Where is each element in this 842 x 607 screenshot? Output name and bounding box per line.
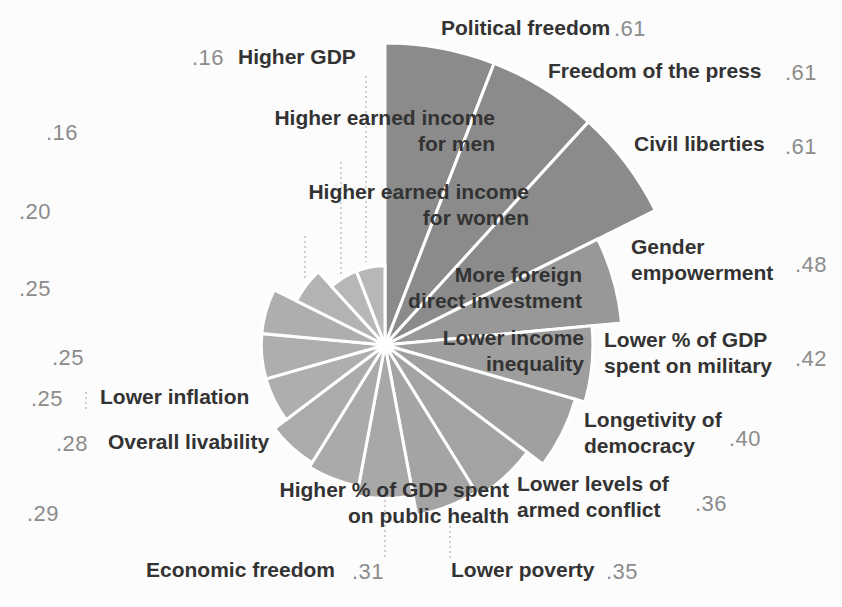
wedge-value-lower-inflation: .25 bbox=[31, 386, 63, 412]
wedge-value-overall-livability: .28 bbox=[56, 431, 88, 457]
wedge-value-lower-income-inequality: .25 bbox=[52, 345, 84, 371]
wedge-value-political-freedom: .61 bbox=[614, 16, 646, 42]
wedge-label-lower-armed-conflict: Lower levels ofarmed conflict bbox=[517, 471, 669, 523]
wedge-value-lower-armed-conflict: .36 bbox=[695, 491, 727, 517]
wedge-value-earned-income-women: .20 bbox=[19, 199, 51, 225]
wedge-label-line: empowerment bbox=[631, 260, 773, 286]
rose-chart: Political freedom.61Freedom of the press… bbox=[0, 0, 842, 607]
wedge-label-line: democracy bbox=[584, 433, 722, 459]
wedge-value-civil-liberties: .61 bbox=[785, 134, 817, 160]
wedge-label-line: on public health bbox=[280, 503, 509, 529]
wedge-label-line: Gender bbox=[631, 234, 773, 260]
wedge-label-earned-income-women: Higher earned incomefor women bbox=[308, 179, 529, 231]
wedge-label-gender-empowerment: Genderempowerment bbox=[631, 234, 773, 286]
wedge-label-line: for men bbox=[274, 131, 495, 157]
wedge-label-line: Lower inflation bbox=[100, 384, 249, 410]
wedge-label-lower-gdp-military: Lower % of GDPspent on military bbox=[604, 327, 772, 379]
wedge-value-foreign-direct-investment: .25 bbox=[19, 276, 51, 302]
chart-labels-layer: Political freedom.61Freedom of the press… bbox=[0, 0, 842, 607]
wedge-label-higher-gdp: Higher GDP bbox=[238, 44, 356, 70]
wedge-label-line: Political freedom bbox=[441, 15, 610, 41]
wedge-label-economic-freedom: Economic freedom bbox=[146, 557, 335, 583]
wedge-value-higher-gdp: .16 bbox=[192, 45, 224, 71]
wedge-label-line: inequality bbox=[443, 351, 584, 377]
wedge-label-freedom-of-the-press: Freedom of the press bbox=[548, 58, 762, 84]
wedge-label-lower-poverty: Lower poverty bbox=[451, 557, 595, 583]
wedge-label-lower-inflation: Lower inflation bbox=[100, 384, 249, 410]
wedge-label-earned-income-men: Higher earned incomefor men bbox=[274, 105, 495, 157]
wedge-label-civil-liberties: Civil liberties bbox=[634, 131, 765, 157]
wedge-value-lower-poverty: .35 bbox=[606, 559, 638, 585]
wedge-label-line: More foreign bbox=[408, 262, 582, 288]
wedge-label-line: armed conflict bbox=[517, 497, 669, 523]
wedge-label-line: Higher % of GDP spent bbox=[280, 477, 509, 503]
wedge-label-line: Overall livability bbox=[108, 429, 269, 455]
wedge-value-economic-freedom: .31 bbox=[352, 559, 384, 585]
wedge-label-line: Freedom of the press bbox=[548, 58, 762, 84]
wedge-value-longetivity-of-democracy: .40 bbox=[729, 426, 761, 452]
wedge-value-gender-empowerment: .48 bbox=[795, 252, 827, 278]
wedge-label-overall-livability: Overall livability bbox=[108, 429, 269, 455]
wedge-value-earned-income-men: .16 bbox=[46, 120, 78, 146]
wedge-value-freedom-of-the-press: .61 bbox=[785, 60, 817, 86]
wedge-label-lower-income-inequality: Lower incomeinequality bbox=[443, 325, 584, 377]
wedge-label-line: Lower income bbox=[443, 325, 584, 351]
wedge-label-line: Lower poverty bbox=[451, 557, 595, 583]
wedge-value-gdp-public-health: .29 bbox=[27, 501, 59, 527]
wedge-label-line: Higher earned income bbox=[308, 179, 529, 205]
wedge-label-line: Economic freedom bbox=[146, 557, 335, 583]
wedge-label-line: Lower levels of bbox=[517, 471, 669, 497]
wedge-label-line: for women bbox=[308, 205, 529, 231]
wedge-label-line: spent on military bbox=[604, 353, 772, 379]
wedge-value-lower-gdp-military: .42 bbox=[795, 346, 827, 372]
wedge-label-gdp-public-health: Higher % of GDP spenton public health bbox=[280, 477, 509, 529]
wedge-label-line: Civil liberties bbox=[634, 131, 765, 157]
wedge-label-line: Longetivity of bbox=[584, 407, 722, 433]
wedge-label-political-freedom: Political freedom bbox=[441, 15, 610, 41]
wedge-label-longetivity-of-democracy: Longetivity ofdemocracy bbox=[584, 407, 722, 459]
wedge-label-line: Lower % of GDP bbox=[604, 327, 772, 353]
wedge-label-line: Higher GDP bbox=[238, 44, 356, 70]
wedge-label-foreign-direct-investment: More foreigndirect investment bbox=[408, 262, 582, 314]
wedge-label-line: Higher earned income bbox=[274, 105, 495, 131]
wedge-label-line: direct investment bbox=[408, 288, 582, 314]
